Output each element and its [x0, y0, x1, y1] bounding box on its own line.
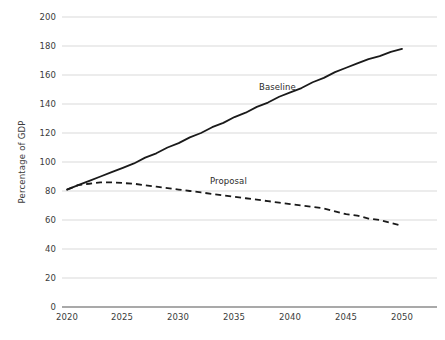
x-tick-label: 2025 — [102, 311, 142, 323]
x-tick-label: 2020 — [47, 311, 87, 323]
chart-container: Percentage of GDP 200 180 160 140 120 10… — [0, 0, 445, 340]
x-tick-label: 2045 — [326, 311, 366, 323]
x-tick-label: 2035 — [214, 311, 254, 323]
x-tick-label: 2050 — [382, 311, 422, 323]
x-tick-label: 2040 — [270, 311, 310, 323]
series-annotation-proposal: Proposal — [210, 176, 247, 186]
plot-area — [0, 0, 445, 340]
series-annotation-baseline: Baseline — [259, 82, 296, 92]
series-line-proposal — [67, 182, 402, 226]
series-line-baseline — [67, 49, 402, 190]
x-tick-label: 2030 — [158, 311, 198, 323]
